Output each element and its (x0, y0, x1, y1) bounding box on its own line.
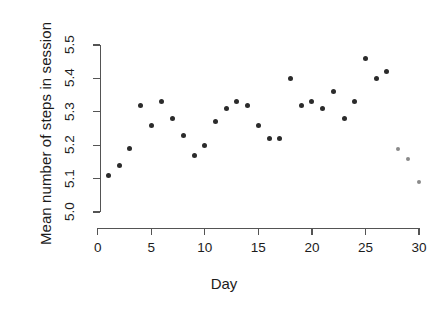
data-point (149, 123, 154, 128)
x-axis-tick-label: 30 (404, 240, 434, 255)
x-axis-tick (97, 228, 98, 235)
data-point (352, 99, 357, 104)
data-point (384, 69, 389, 74)
data-point (342, 116, 347, 121)
data-point (288, 76, 293, 81)
data-point (245, 103, 250, 108)
data-point (192, 153, 197, 158)
data-point (106, 173, 111, 178)
data-point (256, 123, 261, 128)
data-point (406, 157, 410, 161)
data-point (277, 136, 282, 141)
data-point (309, 99, 314, 104)
y-axis-tick (93, 44, 100, 45)
data-point (417, 180, 421, 184)
x-axis-tick (258, 228, 259, 235)
x-axis-tick-label: 10 (190, 240, 220, 255)
data-point (127, 146, 132, 151)
data-point (202, 143, 207, 148)
data-point (363, 56, 368, 61)
plot-area: 5.05.15.25.35.45.5051015202530 (0, 0, 448, 313)
x-axis-tick (151, 228, 152, 235)
data-point (159, 99, 164, 104)
x-axis-tick-label: 25 (350, 240, 380, 255)
data-point (234, 99, 239, 104)
x-axis-tick-label: 15 (243, 240, 273, 255)
data-point (320, 106, 325, 111)
data-point (181, 133, 186, 138)
data-point (224, 106, 229, 111)
x-axis-tick-label: 0 (83, 240, 113, 255)
data-point (138, 103, 143, 108)
scatter-plot-figure: Mean number of steps in session Day 5.05… (0, 0, 448, 313)
x-axis-tick (365, 228, 366, 235)
y-axis-tick (93, 178, 100, 179)
data-point (267, 136, 272, 141)
data-point (396, 147, 400, 151)
x-axis-tick (311, 228, 312, 235)
y-axis-tick (93, 211, 100, 212)
y-axis-tick-label: 5.5 (62, 25, 77, 65)
data-point (117, 163, 122, 168)
x-axis-tick-label: 5 (136, 240, 166, 255)
data-point (299, 103, 304, 108)
data-point (331, 89, 336, 94)
y-axis-tick (93, 78, 100, 79)
x-axis-tick (204, 228, 205, 235)
y-axis-tick (93, 145, 100, 146)
data-point (213, 119, 218, 124)
data-point (170, 116, 175, 121)
y-axis-tick (93, 111, 100, 112)
data-point (374, 76, 379, 81)
x-axis-tick (418, 228, 419, 235)
x-axis-tick-label: 20 (297, 240, 327, 255)
